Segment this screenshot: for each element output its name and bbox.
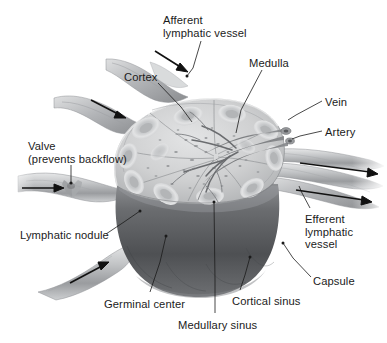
label-germinal-center: Germinal center xyxy=(104,298,185,311)
label-efferent-lymphatic-vessel: Efferentlymphaticvessel xyxy=(305,213,353,251)
label-lymphatic-nodule: Lymphatic nodule xyxy=(20,229,109,242)
label-vein: Vein xyxy=(325,96,347,109)
label-valve-line1: Valve xyxy=(28,140,56,152)
lymph-node-diagram: Afferentlymphatic vessel Cortex Medulla … xyxy=(0,0,387,343)
label-artery: Artery xyxy=(325,126,355,139)
label-capsule: Capsule xyxy=(313,275,355,288)
label-cortex: Cortex xyxy=(124,71,158,84)
label-afferent-lymphatic-vessel-line2: lymphatic vessel xyxy=(163,27,247,39)
label-cortical-sinus: Cortical sinus xyxy=(232,295,301,308)
label-vein-text: Vein xyxy=(325,96,347,108)
label-valve: Valve(prevents backflow) xyxy=(28,140,127,165)
label-efferent-lymphatic-vessel-line3: vessel xyxy=(305,238,337,250)
label-valve-line2: (prevents backflow) xyxy=(28,153,127,165)
label-afferent-lymphatic-vessel: Afferentlymphatic vessel xyxy=(163,14,247,39)
label-artery-text: Artery xyxy=(325,126,355,138)
label-efferent-lymphatic-vessel-line1: Efferent xyxy=(305,213,345,225)
label-medulla-text: Medulla xyxy=(249,57,289,69)
label-efferent-lymphatic-vessel-line2: lymphatic xyxy=(305,226,353,238)
label-medullary-sinus-text: Medullary sinus xyxy=(178,319,257,331)
label-cortex-text: Cortex xyxy=(124,71,158,83)
lymph-node-illustration xyxy=(0,0,387,343)
label-afferent-lymphatic-vessel-line1: Afferent xyxy=(163,14,203,26)
label-medulla: Medulla xyxy=(249,57,289,70)
label-lymphatic-nodule-text: Lymphatic nodule xyxy=(20,229,109,241)
label-cortical-sinus-text: Cortical sinus xyxy=(232,295,301,307)
label-capsule-text: Capsule xyxy=(313,275,355,287)
label-germinal-center-text: Germinal center xyxy=(104,298,185,310)
label-medullary-sinus: Medullary sinus xyxy=(178,319,257,332)
